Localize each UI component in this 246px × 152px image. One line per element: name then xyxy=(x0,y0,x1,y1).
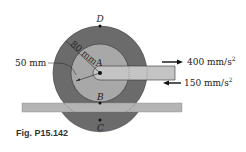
arrow-left-icon xyxy=(163,81,169,86)
accel-right-label: 400 mm/s2 xyxy=(187,55,236,67)
label-b: B xyxy=(96,92,104,102)
arrow-right-icon xyxy=(177,60,183,65)
accel-right-value: 400 mm/s xyxy=(187,57,232,67)
accel-left-exponent: 2 xyxy=(229,76,233,83)
slotted-arm xyxy=(93,66,175,80)
accel-left-value: 150 mm/s xyxy=(184,78,229,88)
inner-radius-label: 50 mm xyxy=(15,58,47,68)
rail xyxy=(22,103,182,112)
label-d: D xyxy=(96,14,104,24)
label-c: C xyxy=(97,123,104,133)
figure-caption: Fig. P15.142 xyxy=(16,128,68,138)
point-a-dot xyxy=(98,71,102,75)
point-c-dot xyxy=(99,119,102,122)
accel-left-label: 150 mm/s2 xyxy=(184,76,233,88)
point-d-dot xyxy=(99,25,102,28)
accel-right-exponent: 2 xyxy=(232,55,236,62)
